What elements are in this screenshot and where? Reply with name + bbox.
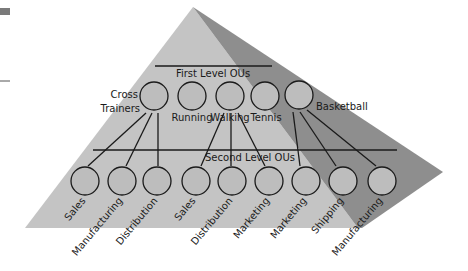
ou-node-marketing-2 (292, 167, 320, 195)
ou-node-sales-1 (71, 167, 99, 195)
label-cross: Cross (111, 89, 138, 100)
ou-node-manufacturing-2 (368, 167, 396, 195)
ou-node-cross-trainers (140, 82, 168, 110)
ou-node-tennis (251, 82, 279, 110)
ou-node-manufacturing-1 (108, 167, 136, 195)
label-running: Running (172, 112, 213, 123)
ou-node-distribution-1 (143, 167, 171, 195)
ou-node-distribution-2 (218, 167, 246, 195)
label-trainers: Trainers (100, 103, 140, 114)
ou-node-shipping (329, 167, 357, 195)
label-tennis: Tennis (249, 112, 281, 123)
ou-node-basketball (285, 81, 313, 109)
ou-node-running (178, 82, 206, 110)
ou-node-marketing-1 (255, 167, 283, 195)
first-level-title: First Level OUs (176, 68, 250, 79)
diagram-canvas: First Level OUs Second Level OUs Cross T… (0, 0, 468, 271)
label-basketball: Basketball (316, 101, 368, 112)
ou-node-sales-2 (182, 167, 210, 195)
second-level-title: Second Level OUs (205, 152, 295, 163)
ou-pyramid-diagram: First Level OUs Second Level OUs Cross T… (0, 0, 468, 271)
label-walking: Walking (210, 112, 249, 123)
corner-mark (0, 8, 10, 15)
ou-node-walking (216, 82, 244, 110)
